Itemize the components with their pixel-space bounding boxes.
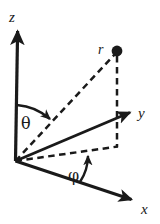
x-axis-label: x [140,201,148,217]
phi-label: φ [68,166,79,185]
z-axis-line [16,31,18,161]
point-marker [112,46,123,57]
z-axis [16,31,18,161]
phi-arc [80,156,88,182]
y-axis-label: y [136,105,145,121]
diagram-canvas: z y x r θ φ [0,0,160,224]
theta-label: θ [21,114,31,133]
spherical-coordinates-diagram: z y x r θ φ [0,0,160,224]
radius-label: r [98,42,104,57]
z-axis-label: z [8,9,15,25]
